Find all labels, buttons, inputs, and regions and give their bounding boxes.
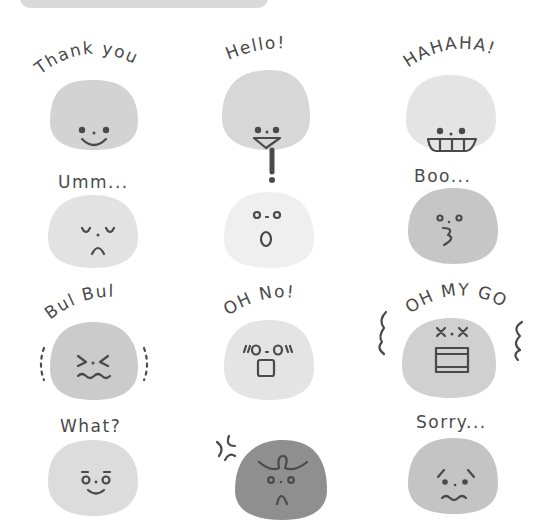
svg-text:HAHAHA!: HAHAHA! <box>399 33 498 72</box>
sticker-boo[interactable]: Boo... <box>370 150 544 280</box>
sticker-oh-no[interactable]: OH No! <box>190 280 370 410</box>
svg-text:Hello!: Hello! <box>222 32 285 63</box>
smile-face-icon: Thank you <box>10 30 190 160</box>
surprised-face-icon <box>190 140 370 270</box>
svg-text:Bul Bul: Bul Bul <box>41 281 115 323</box>
sleepy-face-icon: Umm... <box>10 150 190 280</box>
curious-face-icon: What? <box>10 400 190 523</box>
sticker-bul-bul[interactable]: Bul Bul <box>10 280 190 410</box>
svg-text:Sorry...: Sorry... <box>416 412 487 432</box>
shocked-face-icon: OH No! <box>190 280 370 410</box>
sticker-hahaha[interactable]: HAHAHA! <box>370 30 544 160</box>
pout-face-icon: Boo... <box>370 150 544 280</box>
svg-text:What?: What? <box>60 416 121 436</box>
svg-text:Umm...: Umm... <box>58 172 129 192</box>
sticker-sorry[interactable]: Sorry... <box>370 400 544 523</box>
svg-text:Boo...: Boo... <box>414 166 471 186</box>
header-bar <box>20 0 268 8</box>
worried-face-icon: Sorry... <box>370 400 544 523</box>
sticker-angry[interactable] <box>195 400 375 523</box>
svg-text:OH No!: OH No! <box>220 281 296 319</box>
dead-face-icon: OH MY GOD <box>362 280 542 410</box>
grin-face-icon: HAHAHA! <box>370 30 544 160</box>
angry-face-icon <box>195 400 375 523</box>
sticker-oh-my-god[interactable]: OH MY GOD <box>362 280 542 410</box>
sticker-thank-you[interactable]: Thank you <box>10 30 190 160</box>
sticker-what[interactable]: What? <box>10 400 190 523</box>
shivering-face-icon: Bul Bul <box>10 280 190 410</box>
svg-text:Thank you: Thank you <box>30 37 142 78</box>
sticker-surprised[interactable] <box>190 140 370 270</box>
sticker-umm[interactable]: Umm... <box>10 150 190 280</box>
